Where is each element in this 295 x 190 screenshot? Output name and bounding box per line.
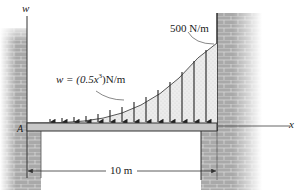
x-axis-label: x <box>289 119 294 130</box>
point-a-label: A <box>17 124 23 134</box>
load-equation-label: w = (0.5x3)N/m <box>56 73 125 85</box>
beam-diagram: w x A w = (0.5x3)N/m 500 N/m 10 m <box>0 0 295 190</box>
equation-leader-line <box>96 91 124 100</box>
load-equation-prefix: w = (0.5 <box>56 73 94 85</box>
diagram-canvas <box>0 0 295 190</box>
beam <box>27 123 217 131</box>
w-axis-label: w <box>22 3 29 14</box>
load-equation-suffix: )N/m <box>102 73 125 85</box>
max-load-label: 500 N/m <box>170 23 209 34</box>
left-wall <box>0 22 41 190</box>
length-label: 10 m <box>110 165 132 176</box>
